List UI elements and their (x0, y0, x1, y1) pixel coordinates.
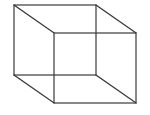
back-face (14, 5, 96, 75)
necker-cube-diagram (0, 0, 150, 115)
edge-bottom-right (96, 75, 136, 103)
edge-top-right (96, 5, 136, 33)
front-face (54, 33, 136, 103)
edge-top-left (14, 5, 54, 33)
edge-bottom-left (14, 75, 54, 103)
